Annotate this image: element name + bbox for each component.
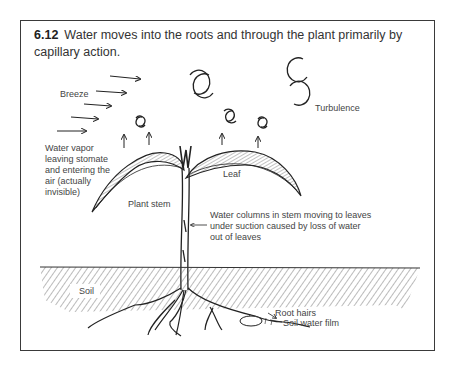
soil-water-film-label: Soil water film bbox=[283, 318, 339, 329]
water-columns-label: Water columns in stem moving to leaves u… bbox=[210, 210, 371, 243]
breeze-label: Breeze bbox=[60, 89, 89, 100]
soil-water-film-drawing bbox=[240, 316, 262, 326]
turbulence-swirls bbox=[136, 58, 310, 128]
plant-stem-label: Plant stem bbox=[128, 199, 171, 210]
soil-label: Soil bbox=[79, 286, 94, 297]
breeze-arrows bbox=[57, 76, 140, 131]
turbulence-label: Turbulence bbox=[315, 103, 360, 114]
vapor-arrows bbox=[124, 133, 258, 148]
water-vapor-label: Water vapor leaving stomate and entering… bbox=[45, 143, 110, 198]
leaf-label: Leaf bbox=[223, 169, 241, 180]
right-leaf bbox=[186, 151, 301, 196]
